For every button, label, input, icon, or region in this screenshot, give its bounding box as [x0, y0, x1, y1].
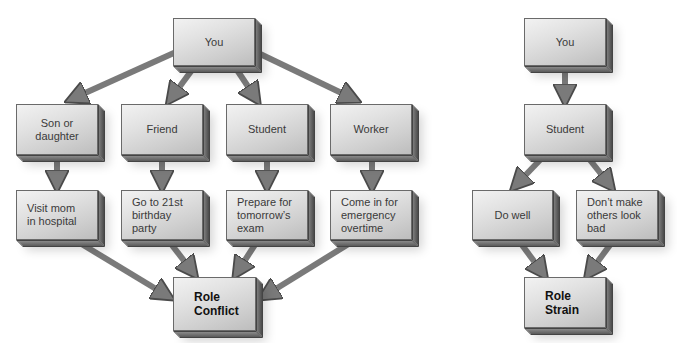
- you-label: You: [174, 36, 254, 49]
- expectation-box-do-well: Do well: [472, 190, 553, 240]
- arrow-dontmake-to-strain: [590, 245, 610, 272]
- arrow-dowell-to-strain: [522, 245, 542, 272]
- expectation-label: Come in for emergency overtime: [331, 196, 411, 235]
- expectation-label: Prepare for tomorrow’s exam: [227, 196, 307, 235]
- role-label: Student: [227, 123, 307, 136]
- you-box-conflict: You: [173, 18, 255, 66]
- arrow-student-to-dontmake: [590, 160, 609, 184]
- expectation-label: Don’t make others look bad: [577, 196, 657, 235]
- role-box-friend: Friend: [121, 104, 203, 155]
- expectation-label: Visit mom in hospital: [17, 202, 97, 228]
- expectation-box-prepare-exam: Prepare for tomorrow’s exam: [226, 190, 308, 240]
- role-box-student: Student: [226, 104, 308, 155]
- expectation-box-emergency-overtime: Come in for emergency overtime: [330, 190, 412, 240]
- role-strain-box: Role Strain: [524, 277, 606, 328]
- expectation-box-dont-make-others-look-bad: Don’t make others look bad: [576, 190, 658, 240]
- you-label: You: [525, 36, 605, 49]
- role-label: Worker: [331, 123, 411, 136]
- role-box-worker: Worker: [330, 104, 412, 155]
- arrow-you-to-son: [74, 52, 176, 98]
- arrow-you-to-student: [237, 70, 255, 97]
- arrow-visit-to-conflict: [75, 240, 166, 295]
- arrow-student-to-dowell: [517, 160, 540, 184]
- role-label: Student: [525, 123, 605, 136]
- role-box-student-strain: Student: [524, 104, 606, 155]
- role-box-son-or-daughter: Son or daughter: [16, 104, 98, 155]
- arrow-you-to-worker: [256, 52, 352, 98]
- expectation-label: Do well: [473, 209, 552, 222]
- arrow-overtime-to-conflict: [266, 240, 355, 295]
- you-box-strain: You: [524, 18, 606, 66]
- expectation-label: Go to 21st birthday party: [122, 196, 202, 235]
- expectation-box-birthday-party: Go to 21st birthday party: [121, 190, 203, 240]
- role-conflict-box: Role Conflict: [173, 277, 256, 331]
- role-strain-label: Role Strain: [525, 289, 605, 317]
- role-label: Friend: [122, 123, 202, 136]
- arrow-you-to-friend: [172, 70, 192, 97]
- expectation-box-visit-mom: Visit mom in hospital: [16, 190, 98, 240]
- role-conflict-label: Role Conflict: [174, 290, 255, 318]
- role-label: Son or daughter: [17, 117, 97, 143]
